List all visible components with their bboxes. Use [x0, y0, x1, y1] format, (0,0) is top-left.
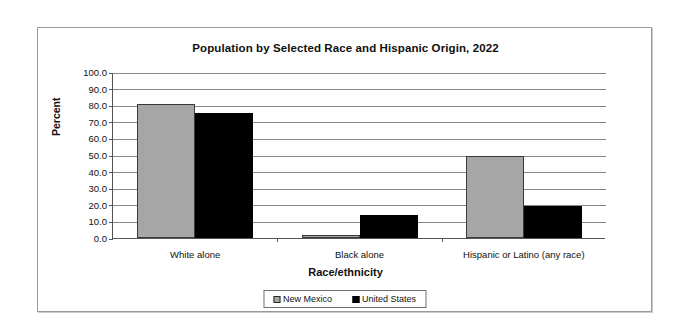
plot-area: 100.090.080.070.060.050.040.030.020.010.… — [112, 73, 605, 239]
y-axis-tick-label: 80.0 — [89, 101, 108, 111]
gridline — [113, 73, 606, 74]
y-axis-tick-label: 50.0 — [89, 151, 108, 161]
y-axis-tick-label: 70.0 — [89, 118, 108, 128]
y-axis-tick-mark — [109, 222, 113, 223]
chart-title: Population by Selected Race and Hispanic… — [38, 42, 653, 54]
bar-hispanic-or-latino-any-race-united-states — [524, 206, 582, 238]
legend-label: New Mexico — [283, 294, 332, 304]
y-axis-tick-mark — [109, 239, 113, 240]
bar-white-alone-new-mexico — [137, 104, 195, 238]
legend-item-new-mexico[interactable]: New Mexico — [273, 294, 332, 304]
bar-hispanic-or-latino-any-race-new-mexico — [466, 156, 524, 238]
y-axis-tick-label: 40.0 — [89, 168, 108, 178]
legend-label: United States — [362, 294, 416, 304]
x-axis-title: Race/ethnicity — [38, 266, 653, 278]
y-axis-tick-label: 100.0 — [83, 68, 107, 78]
bar-black-alone-new-mexico — [302, 235, 360, 238]
y-axis-tick-mark — [109, 106, 113, 107]
legend-swatch-icon — [352, 296, 359, 303]
x-axis-tick-mark — [442, 238, 443, 242]
chart-figure-frame: Population by Selected Race and Hispanic… — [37, 27, 652, 312]
legend-item-united-states[interactable]: United States — [352, 294, 416, 304]
bar-black-alone-united-states — [360, 215, 418, 238]
y-axis-tick-mark — [109, 122, 113, 123]
y-axis-title: Percent — [50, 120, 62, 136]
x-axis-tick-mark — [277, 238, 278, 242]
y-axis-tick-mark — [109, 189, 113, 190]
chart-screenshot: Population by Selected Race and Hispanic… — [0, 0, 684, 329]
y-axis-tick-label: 30.0 — [89, 184, 108, 194]
y-axis-tick-mark — [109, 139, 113, 140]
chart-legend: New MexicoUnited States — [263, 290, 426, 308]
y-axis-tick-mark — [109, 172, 113, 173]
x-axis-category-label: Hispanic or Latino (any race) — [463, 249, 584, 260]
bar-white-alone-united-states — [195, 113, 253, 238]
y-axis-tick-label: 10.0 — [89, 218, 108, 228]
y-axis-tick-mark — [109, 73, 113, 74]
y-axis-tick-label: 0.0 — [94, 234, 107, 244]
y-axis-tick-mark — [109, 156, 113, 157]
y-axis-tick-label: 60.0 — [89, 135, 108, 145]
y-axis-tick-mark — [109, 89, 113, 90]
y-axis-tick-label: 90.0 — [89, 85, 108, 95]
x-axis-category-label: Black alone — [335, 249, 384, 260]
y-axis-tick-mark — [109, 205, 113, 206]
y-axis-tick-label: 20.0 — [89, 201, 108, 211]
legend-swatch-icon — [273, 296, 280, 303]
x-axis-category-label: White alone — [170, 249, 220, 260]
gridline — [113, 89, 606, 90]
